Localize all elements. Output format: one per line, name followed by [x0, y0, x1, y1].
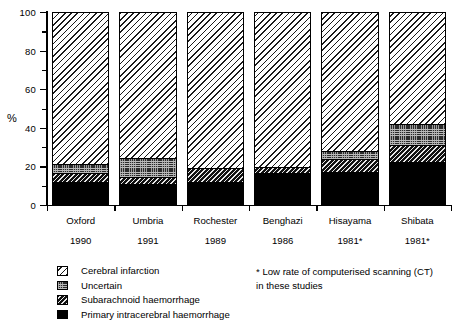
bar-benghazi: [254, 12, 312, 205]
bar-segment: [390, 162, 446, 204]
category-year: 1986: [249, 236, 316, 246]
x-tick: [249, 206, 250, 211]
x-tick: [47, 206, 48, 211]
bar-segment: [120, 184, 176, 204]
plot-area: [47, 12, 451, 205]
y-tick-label: 40: [10, 123, 36, 134]
footnote-text: * Low rate of computerised scanning (CT)…: [256, 265, 433, 292]
legend-swatch-icon: [57, 281, 68, 291]
category-place: Oxford: [47, 216, 114, 226]
bar-segment: [255, 12, 311, 167]
category-year: 1991: [114, 236, 181, 246]
y-tick-minor: [42, 147, 46, 148]
stacked-bar-chart-figure: % 020406080100 Oxford1990Umbria1991Roche…: [0, 0, 460, 326]
bar-shibata: [389, 12, 447, 205]
y-tick-minor: [42, 70, 46, 71]
bar-segment: [188, 12, 244, 168]
y-tick-minor: [42, 186, 46, 187]
bar-segment: [120, 177, 176, 184]
y-tick-major: [40, 51, 46, 52]
bar-segment: [255, 167, 311, 173]
category-place: Umbria: [114, 216, 181, 226]
bar-segment: [390, 12, 446, 124]
bar-umbria: [119, 12, 177, 205]
bar-segment: [120, 12, 176, 158]
category-label-benghazi: Benghazi1986: [249, 216, 316, 250]
legend-swatch-icon: [57, 295, 68, 305]
category-label-hisayama: Hisayama1981*: [316, 216, 383, 250]
bar-segment: [322, 151, 378, 159]
category-year: 1990: [47, 236, 114, 246]
bar-segment: [322, 159, 378, 173]
legend-label: Subarachnoid haemorrhage: [81, 294, 200, 305]
bar-segment: [188, 182, 244, 204]
x-tick: [114, 206, 115, 211]
y-tick-major: [40, 166, 46, 167]
bar-oxford: [52, 12, 110, 205]
x-tick: [182, 206, 183, 211]
category-place: Benghazi: [249, 216, 316, 226]
y-tick-label: 0: [10, 200, 36, 211]
bar-segment: [120, 158, 176, 177]
y-tick-major: [40, 12, 46, 13]
bar-segment: [390, 145, 446, 161]
legend-swatch-icon: [57, 266, 68, 276]
category-year: 1989: [182, 236, 249, 246]
category-place: Hisayama: [316, 216, 383, 226]
bar-segment: [255, 173, 311, 204]
y-tick-major: [40, 128, 46, 129]
category-place: Rochester: [182, 216, 249, 226]
x-tick: [316, 206, 317, 211]
y-tick-major: [40, 205, 46, 206]
y-tick-minor: [42, 109, 46, 110]
y-tick-label: 80: [10, 46, 36, 57]
category-year: 1981*: [316, 236, 383, 246]
bar-segment: [53, 164, 109, 173]
legend-swatch-icon: [57, 310, 68, 320]
y-tick-label: 100: [10, 7, 36, 18]
category-label-rochester: Rochester1989: [182, 216, 249, 250]
bar-hisayama: [321, 12, 379, 205]
bar-segment: [322, 12, 378, 151]
category-label-umbria: Umbria1991: [114, 216, 181, 250]
bar-rochester: [187, 12, 245, 205]
bar-segment: [53, 12, 109, 164]
category-label-oxford: Oxford1990: [47, 216, 114, 250]
y-tick-label: 60: [10, 84, 36, 95]
bar-segment: [390, 124, 446, 145]
category-place: Shibata: [384, 216, 451, 226]
y-tick-minor: [42, 31, 46, 32]
bar-segment: [53, 173, 109, 182]
legend-label: Primary intracerebral haemorrhage: [81, 309, 230, 320]
category-year: 1981*: [384, 236, 451, 246]
x-tick: [384, 206, 385, 211]
bar-segment: [188, 168, 244, 182]
bar-segment: [53, 182, 109, 204]
x-tick: [451, 206, 452, 211]
category-label-shibata: Shibata1981*: [384, 216, 451, 250]
y-tick-major: [40, 89, 46, 90]
y-tick-label: 20: [10, 161, 36, 172]
bar-segment: [322, 172, 378, 204]
legend-label: Cerebral infarction: [81, 265, 159, 276]
legend-label: Uncertain: [81, 280, 122, 291]
